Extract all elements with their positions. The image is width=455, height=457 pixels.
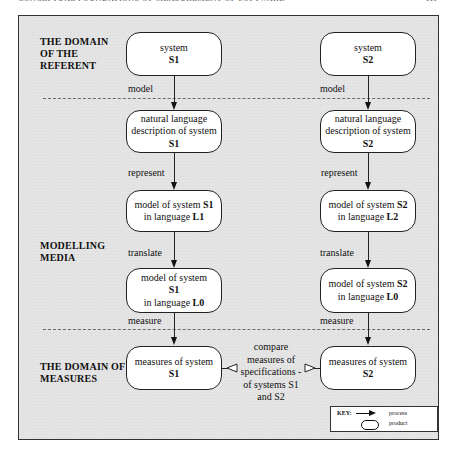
box-text: model of system S2 — [328, 199, 407, 212]
open-triangle-right-icon — [304, 363, 316, 373]
box-text: in language L0 — [338, 291, 399, 304]
process-arrow-icon — [356, 413, 370, 414]
domain-separator-top — [43, 98, 430, 99]
section-label-referent: THE DOMAIN OF THE REFERENT — [40, 36, 108, 72]
edge-label-translate-s1: translate — [128, 247, 162, 259]
arrowhead-icon — [365, 182, 371, 190]
box-text: in language L1 — [144, 211, 205, 224]
arrowhead-icon — [365, 260, 371, 268]
edge-label-translate-s2: translate — [320, 247, 354, 259]
box-system-id: S1 — [169, 368, 180, 381]
arrowhead-icon — [171, 260, 177, 268]
box-text: natural language — [141, 113, 207, 126]
process-arrow-measure-s1 — [174, 313, 175, 339]
box-system-id: S1 — [169, 54, 180, 67]
process-arrow-translate-s2 — [368, 232, 369, 262]
box-text: system — [160, 42, 188, 55]
box-system-id: S1 — [169, 284, 180, 297]
box-model-s1-l0: model of system S1 in language L0 — [126, 268, 222, 313]
edge-label-model-s2: model — [320, 83, 345, 95]
arrowhead-icon — [365, 102, 371, 110]
page-number: 111 — [426, 0, 437, 3]
process-arrow-measure-s2 — [368, 313, 369, 339]
box-model-s1-l1: model of system S1 in language L1 — [126, 190, 222, 232]
box-measures-s2: measures of system S2 — [320, 346, 416, 390]
product-shape-icon — [361, 420, 379, 430]
box-text: in language L2 — [338, 211, 399, 224]
arrowhead-icon — [365, 337, 371, 345]
box-text: natural language — [335, 113, 401, 126]
open-triangle-left-icon — [226, 363, 238, 373]
process-arrow-model-s1 — [174, 76, 175, 104]
edge-label-measure-s1: measure — [128, 315, 161, 327]
edge-label-represent-s2: represent — [321, 167, 358, 179]
edge-label-represent-s1: represent — [128, 167, 165, 179]
section-label-measures: THE DOMAIN OF MEASURES — [40, 361, 125, 385]
box-measures-s1: measures of system S1 — [126, 346, 222, 390]
arrowhead-icon — [369, 410, 376, 416]
box-system-s2: system S2 — [320, 32, 416, 76]
running-header: CONCEPTUAL FOUNDATIONS OF MEASUREMENT OF… — [18, 0, 438, 2]
box-model-s2-l0: model of system S2 in language L0 — [320, 268, 416, 313]
legend-product-label: product — [389, 420, 407, 426]
box-model-s2-l2: model of system S2 in language L2 — [320, 190, 416, 232]
process-arrow-translate-s1 — [174, 232, 175, 262]
arrowhead-icon — [171, 182, 177, 190]
box-system-id: S2 — [363, 138, 374, 151]
section-label-modelling-media: MODELLING MEDIA — [40, 240, 105, 264]
legend-key: KEY: process product — [330, 406, 438, 432]
legend-title: KEY: — [337, 410, 351, 416]
box-system-id: S2 — [363, 368, 374, 381]
box-text: measures of system — [329, 356, 407, 369]
box-text: description of system — [131, 125, 217, 138]
legend-process-label: process — [389, 410, 407, 416]
edge-label-measure-s2: measure — [320, 315, 353, 327]
box-system-id: S2 — [363, 54, 374, 67]
box-text: in language L0 — [144, 297, 205, 310]
process-arrow-represent-s2 — [368, 153, 369, 183]
box-text: model of system S1 — [134, 199, 213, 212]
domain-separator-bottom — [43, 329, 430, 330]
process-arrow-represent-s1 — [174, 153, 175, 183]
box-text: system — [354, 42, 382, 55]
arrowhead-icon — [171, 102, 177, 110]
process-arrow-model-s2 — [368, 76, 369, 104]
box-system-s1: system S1 — [126, 32, 222, 76]
arrowhead-icon — [171, 337, 177, 345]
box-nl-description-s1: natural language description of system S… — [126, 110, 222, 153]
compare-label: compare measures of specifications - of … — [228, 341, 314, 404]
box-text: description of system — [325, 125, 411, 138]
box-text: model of system S2 — [328, 278, 407, 291]
box-nl-description-s2: natural language description of system S… — [320, 110, 416, 153]
box-text: measures of system — [135, 356, 213, 369]
edge-label-model-s1: model — [128, 83, 153, 95]
box-system-id: S1 — [169, 138, 180, 151]
box-text: model of system — [141, 272, 207, 285]
